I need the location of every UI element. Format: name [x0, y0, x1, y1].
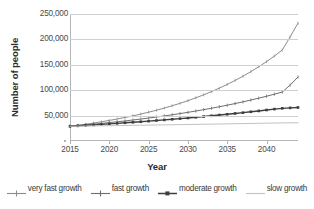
data-point-marker: [289, 107, 292, 110]
legend-item-slow-growth[interactable]: slow growth: [246, 184, 307, 193]
series-lines: [70, 14, 298, 141]
y-axis-tick-label: 250,000: [40, 9, 68, 18]
x-axis-tick-label: 2035: [219, 145, 236, 154]
data-point-marker: [163, 119, 166, 122]
gridline: [70, 90, 298, 91]
legend-marker-icon: [7, 184, 26, 193]
x-axis-title: Year: [0, 161, 314, 172]
x-axis-tick-label: 2030: [179, 145, 196, 154]
data-point-marker: [132, 121, 135, 124]
legend-item-very-fast-growth[interactable]: very fast growth: [7, 184, 82, 193]
data-point-marker: [179, 117, 182, 120]
data-point-marker: [171, 118, 174, 121]
x-axis-tick: [267, 141, 268, 144]
gridline: [70, 65, 298, 66]
gridline: [70, 116, 298, 117]
x-axis-tick: [149, 141, 150, 144]
data-point-marker: [281, 107, 284, 110]
chart-legend: very fast growthfast growthmoderate grow…: [0, 184, 314, 193]
y-axis-tick-label: 50,000: [44, 111, 68, 120]
data-point-marker: [187, 117, 190, 120]
data-point-marker: [155, 119, 158, 122]
y-axis-zero-tick: [64, 140, 66, 142]
data-point-marker: [139, 120, 142, 123]
x-axis-tick-label: 2015: [61, 145, 78, 154]
y-axis-tick-label: 200,000: [40, 34, 68, 43]
legend-item-moderate-growth[interactable]: moderate growth: [158, 184, 237, 193]
x-axis-tick-label: 2040: [258, 145, 275, 154]
data-point-marker: [257, 110, 260, 113]
x-axis-tick: [227, 141, 228, 144]
plot-area: [70, 14, 298, 141]
legend-label: very fast growth: [28, 184, 82, 193]
data-point-marker: [265, 109, 268, 112]
data-point-marker: [250, 110, 253, 113]
data-point-marker: [297, 106, 300, 109]
gridline: [70, 14, 298, 15]
y-axis-tick-label: 100,000: [40, 85, 68, 94]
y-axis-title: Number of people: [9, 18, 20, 138]
x-axis-tick-label: 2020: [101, 145, 118, 154]
legend-label: moderate growth: [179, 184, 237, 193]
data-point-marker: [108, 123, 111, 126]
data-point-marker: [147, 120, 150, 123]
legend-marker-icon: [158, 184, 177, 193]
x-axis-tick: [70, 141, 71, 144]
data-point-marker: [242, 111, 245, 114]
data-point-marker: [116, 122, 119, 125]
data-point-marker: [234, 112, 237, 115]
y-axis-tick-label: 150,000: [40, 60, 68, 69]
y-axis-tick-labels: 50,000100,000150,000200,000250,000: [26, 0, 68, 150]
line-chart: Number of people 50,000100,000150,000200…: [0, 0, 314, 209]
x-axis-tick-label: 2025: [140, 145, 157, 154]
legend-item-fast-growth[interactable]: fast growth: [91, 184, 149, 193]
data-point-marker: [124, 122, 127, 125]
x-axis-tick: [188, 141, 189, 144]
data-point-marker: [273, 108, 276, 111]
gridline: [70, 39, 298, 40]
legend-label: fast growth: [112, 184, 149, 193]
legend-marker-icon: [246, 184, 265, 193]
legend-label: slow growth: [267, 184, 307, 193]
legend-marker-icon: [91, 184, 110, 193]
x-axis-tick-labels: 201520202025203020352040: [70, 145, 298, 159]
x-axis-tick: [109, 141, 110, 144]
